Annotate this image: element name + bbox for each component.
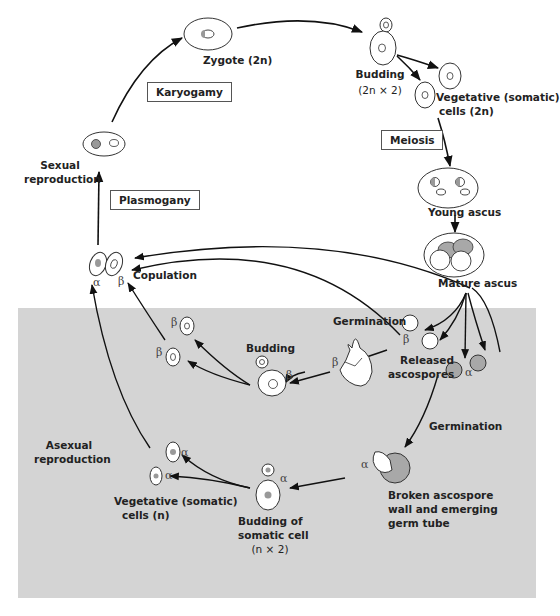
vegetative-haploid-line1: Vegetative (somatic)	[114, 494, 238, 508]
asexual-reproduction-label: Asexual reproduction	[34, 438, 104, 466]
arrow-budding-beta-to-cell-b	[195, 340, 250, 385]
alpha-symbol-cell-1: α	[181, 446, 188, 459]
mature-ascus-label: Mature ascus	[438, 276, 517, 290]
alpha-symbol-spore: α	[465, 366, 472, 379]
budding-diploid-cell	[370, 18, 396, 65]
arrow-germ-alpha-to-budding	[290, 478, 345, 488]
budding-somatic-label: Budding of somatic cell (n × 2)	[238, 514, 302, 556]
young-ascus	[418, 168, 478, 208]
zygote-cell	[184, 18, 232, 50]
germinating-beta-spore	[340, 339, 372, 386]
broken-ascospore-label: Broken ascospore wall and emerging germ …	[388, 488, 498, 530]
sexual-reproduction-line1: Sexual	[24, 158, 96, 172]
beta-symbol-cell-1: β	[171, 316, 177, 329]
vegetative-diploid-label: Vegetative (somatic) cells (2n)	[436, 90, 560, 118]
arrow-to-zygote	[112, 38, 182, 122]
arrow-to-spore-3	[465, 293, 466, 358]
asexual-reproduction-line1: Asexual	[34, 438, 104, 452]
vegetative-diploid-line2: cells (2n)	[439, 104, 560, 118]
alpha-symbol-budding: α	[280, 472, 287, 485]
arrow-to-spore-4	[468, 293, 485, 350]
zygote-label: Zygote (2n)	[203, 53, 272, 67]
arrow-beta-to-copulation	[128, 283, 165, 340]
budding-beta-cell	[256, 356, 286, 396]
broken-ascospore	[373, 452, 410, 483]
vegetative-diploid-line1: Vegetative (somatic)	[436, 90, 560, 104]
vegetative-haploid-line2: cells (n)	[122, 508, 238, 522]
arrow-budding-alpha-to-cell-b	[170, 476, 250, 488]
arrow-to-spore-1	[425, 293, 466, 330]
arrow-budding-alpha-to-cell-a	[182, 455, 250, 488]
beta-symbol-germinating: β	[332, 356, 338, 369]
broken-ascospore-line3: germ tube	[388, 516, 498, 530]
mature-ascus	[424, 233, 484, 277]
released-ascospores-line2: ascospores	[388, 367, 454, 381]
beta-symbol-spore: β	[403, 333, 409, 346]
asexual-reproduction-line2: reproduction	[34, 452, 104, 466]
sexual-reproduction-label: Sexual reproduction	[24, 158, 96, 186]
germination-bottom-label: Germination	[429, 419, 502, 433]
alpha-symbol-copulation: α	[93, 276, 100, 289]
budding-somatic-line1: Budding of	[238, 514, 302, 528]
arrow-alpha-to-copulation	[92, 285, 150, 448]
vegetative-haploid-label: Vegetative (somatic) cells (n)	[114, 494, 238, 522]
released-ascospores-label: Released ascospores	[388, 353, 454, 381]
karyogamy-box: Karyogamy	[147, 82, 232, 102]
budding-diploid-line2: (2n × 2)	[355, 83, 405, 97]
plasmogany-box: Plasmogany	[110, 190, 200, 210]
arrow-budding-beta-to-cell-a	[188, 361, 250, 385]
plasmogany-cell	[83, 132, 125, 156]
broken-ascospore-line2: wall and emerging	[388, 502, 498, 516]
meiosis-box: Meiosis	[381, 130, 443, 150]
budding-alpha-cell	[256, 464, 280, 510]
sexual-reproduction-line2: reproduction	[24, 172, 96, 186]
beta-symbol-cell-2: β	[156, 346, 162, 359]
budding-somatic-line3: (n × 2)	[238, 542, 302, 556]
released-ascospores-line1: Released	[388, 353, 454, 367]
arrow-to-budding	[237, 21, 362, 32]
arrow-germ-beta-to-budding-main	[290, 372, 330, 383]
copulation-cells	[86, 250, 125, 278]
young-ascus-label: Young ascus	[428, 205, 501, 219]
beta-symbol-budding: β	[286, 369, 292, 382]
alpha-symbol-cell-2: α	[165, 469, 172, 482]
budding-diploid-label: Budding (2n × 2)	[355, 67, 405, 97]
broken-ascospore-line1: Broken ascospore	[388, 488, 498, 502]
alpha-symbol-germ-tube: α	[361, 458, 368, 471]
budding-diploid-line1: Budding	[355, 67, 405, 81]
budding-haploid-label: Budding	[246, 341, 295, 355]
germination-top-label: Germination	[333, 314, 406, 328]
arrow-spore-to-germination	[405, 375, 438, 447]
beta-symbol-copulation: β	[118, 275, 124, 288]
copulation-label: Copulation	[133, 268, 197, 282]
budding-somatic-line2: somatic cell	[238, 528, 302, 542]
